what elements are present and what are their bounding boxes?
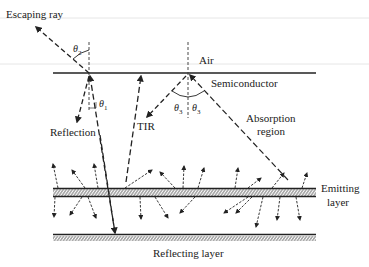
theta3-right-label: θ3 (192, 103, 200, 116)
reflection-ray (77, 76, 89, 122)
theta2-label: θ2 (73, 44, 81, 57)
label-air: Air (199, 55, 214, 66)
label-emitting: Emitting (321, 183, 360, 194)
label-layer: layer (327, 197, 349, 208)
reflecting-layer-hatch (53, 236, 316, 241)
label-semiconductor: Semiconductor (211, 78, 278, 89)
label-reflecting-layer: Reflecting layer (153, 248, 224, 259)
label-escaping-ray: Escaping ray (6, 9, 63, 20)
emitting-layer-hatch (53, 189, 316, 196)
label-tir: TIR (137, 121, 155, 132)
label-region: region (257, 126, 285, 137)
theta3-left-label: θ3 (174, 103, 182, 116)
led-light-extraction-diagram: Escaping ray Air Semiconductor Reflectio… (0, 0, 369, 267)
theta1-label: θ1 (99, 99, 107, 112)
ray-to-reflecting-layer (100, 135, 115, 233)
label-absorption: Absorption (246, 113, 296, 124)
label-reflection: Reflection (50, 127, 96, 138)
